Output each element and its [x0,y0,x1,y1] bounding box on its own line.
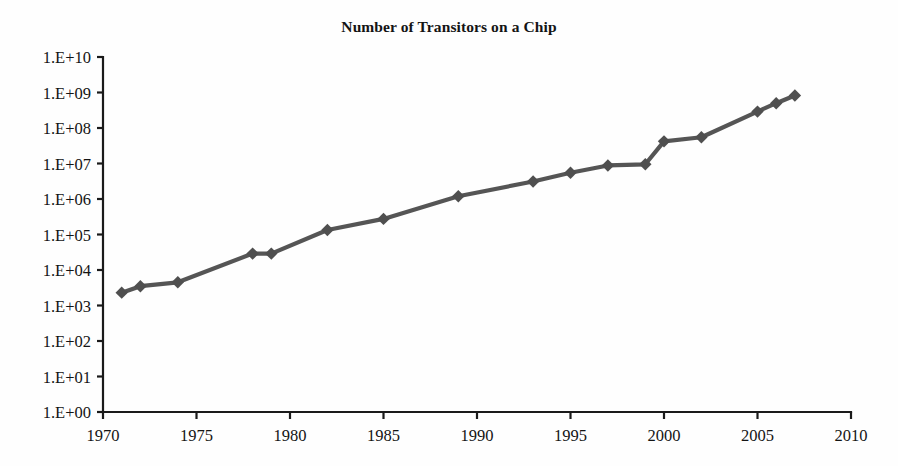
data-point-marker [265,247,277,259]
x-tick-label: 1975 [180,426,213,445]
y-tick-label: 1.E+10 [43,48,91,67]
y-tick-label: 1.E+05 [43,226,91,245]
y-tick-label: 1.E+08 [43,119,91,138]
data-point-marker [695,131,707,143]
x-tick-label: 1970 [87,426,120,445]
y-tick-label: 1.E+06 [43,190,91,209]
y-tick-label: 1.E+02 [43,332,91,351]
data-point-marker [321,224,333,236]
x-tick-label: 1990 [461,426,494,445]
y-tick-label: 1.E+01 [43,368,91,387]
data-point-marker [172,276,184,288]
y-tick-label: 1.E+09 [43,84,91,103]
data-point-marker [564,167,576,179]
data-point-marker [527,175,539,187]
x-tick-label: 1980 [274,426,307,445]
x-tick-label: 2005 [741,426,774,445]
y-axis-tick-labels: 1.E+001.E+011.E+021.E+031.E+041.E+051.E+… [43,48,91,422]
data-point-marker [377,213,389,225]
x-tick-label: 1985 [367,426,400,445]
data-point-marker [770,97,782,109]
y-tick-label: 1.E+04 [43,261,91,280]
data-point-marker [116,286,128,298]
plot-area: 1.E+001.E+011.E+021.E+031.E+041.E+051.E+… [0,0,898,466]
data-point-marker [452,190,464,202]
axis-tick-marks [97,57,851,419]
data-point-marker [602,159,614,171]
data-point-marker [134,280,146,292]
y-tick-label: 1.E+07 [43,155,91,174]
x-tick-label: 1995 [554,426,587,445]
x-axis-tick-labels: 197019751980198519901995200020052010 [87,426,868,445]
data-point-marker [789,89,801,101]
y-tick-label: 1.E+03 [43,297,91,316]
y-tick-label: 1.E+00 [43,403,91,422]
data-point-marker [751,105,763,117]
data-point-marker [246,247,258,259]
x-tick-label: 2000 [648,426,681,445]
chart-figure: Number of Transitors on a Chip 1.E+001.E… [0,0,898,466]
x-tick-label: 2010 [835,426,868,445]
